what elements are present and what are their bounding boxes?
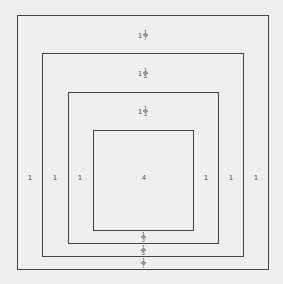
label-bottom-2: 15 bbox=[140, 245, 146, 256]
label-top-2: 1 15 bbox=[138, 68, 148, 79]
denominator: 5 bbox=[142, 251, 145, 256]
denominator: 7 bbox=[142, 264, 145, 269]
fraction: 15 bbox=[141, 245, 146, 256]
label-bottom-1: 13 bbox=[140, 232, 146, 243]
denominator: 5 bbox=[144, 74, 147, 79]
label-bottom-3: 17 bbox=[140, 258, 146, 269]
label-right-3: 1 bbox=[254, 174, 258, 181]
label-whole: 1 bbox=[138, 108, 142, 115]
label-top-3: 1 13 bbox=[138, 106, 148, 117]
fraction: 13 bbox=[141, 232, 146, 243]
square-inner bbox=[93, 130, 194, 231]
label-whole: 1 bbox=[138, 32, 142, 39]
fraction: 17 bbox=[141, 258, 146, 269]
label-top-outer: 1 17 bbox=[138, 30, 148, 41]
label-right-2: 1 bbox=[229, 174, 233, 181]
label-center: 4 bbox=[142, 174, 146, 181]
label-right-1: 1 bbox=[204, 174, 208, 181]
label-left-2: 1 bbox=[53, 174, 57, 181]
denominator: 3 bbox=[144, 112, 147, 117]
label-whole: 1 bbox=[138, 70, 142, 77]
fraction: 13 bbox=[143, 106, 148, 117]
label-left-3: 1 bbox=[78, 174, 82, 181]
fraction: 15 bbox=[143, 68, 148, 79]
label-left-1: 1 bbox=[28, 174, 32, 181]
fraction: 17 bbox=[143, 30, 148, 41]
denominator: 7 bbox=[144, 36, 147, 41]
denominator: 3 bbox=[142, 238, 145, 243]
